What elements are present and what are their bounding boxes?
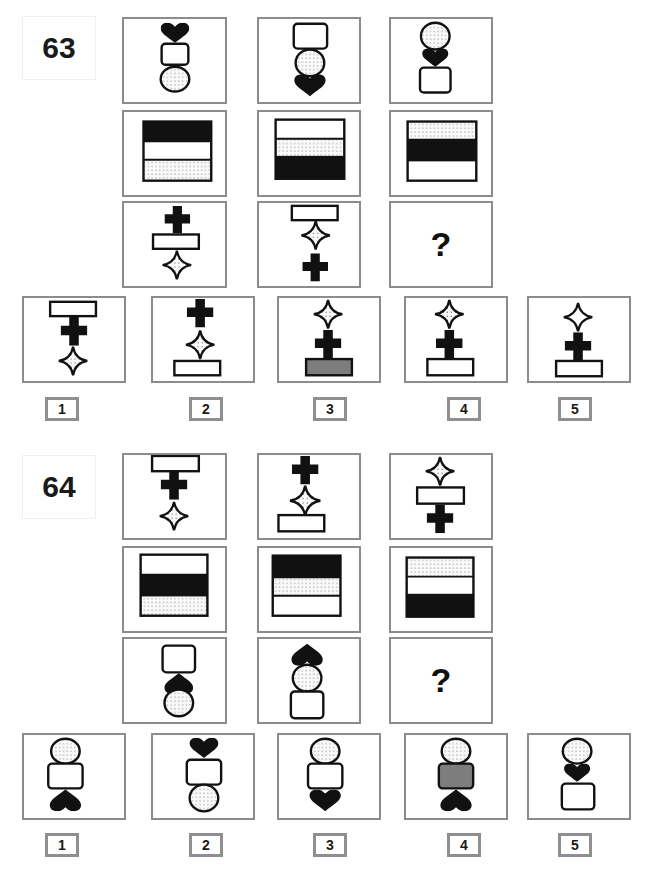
p63-r2c2-stripes — [257, 110, 361, 197]
p64-answer-5[interactable] — [527, 733, 631, 820]
p63-answer-5[interactable] — [527, 296, 631, 383]
heart-icon — [161, 23, 190, 43]
p64-label-5[interactable]: 5 — [558, 833, 592, 857]
p63-r1c1-figure — [122, 17, 227, 104]
p63-answer-1[interactable] — [22, 296, 126, 383]
p63-label-5[interactable]: 5 — [558, 397, 592, 421]
p63-r1c2-figure — [257, 17, 361, 104]
p63-r2c1-stripes — [122, 110, 227, 197]
p64-r3c2-figure — [257, 637, 361, 724]
p64-answer-3[interactable] — [277, 733, 381, 820]
p64-r2c3-stripes — [389, 546, 493, 633]
p63-r3c2-figure — [257, 201, 361, 288]
p63-answer-2[interactable] — [151, 296, 255, 383]
puzzle-number-63: 63 — [22, 16, 96, 80]
p63-label-1[interactable]: 1 — [45, 397, 79, 421]
p63-r2c3-stripes — [389, 110, 493, 197]
p63-answer-4[interactable] — [404, 296, 508, 383]
p63-r3c1-figure — [122, 201, 227, 288]
p63-answer-3[interactable] — [277, 296, 381, 383]
p64-label-1[interactable]: 1 — [45, 833, 79, 857]
question-mark: ? — [391, 203, 491, 286]
question-mark: ? — [391, 639, 491, 722]
p64-r2c1-stripes — [122, 546, 227, 633]
p63-r1c3-figure — [389, 17, 493, 104]
p64-r2c2-stripes — [257, 546, 361, 633]
p64-r1c2-figure — [257, 453, 361, 540]
p64-label-4[interactable]: 4 — [447, 833, 481, 857]
p64-missing-cell: ? — [389, 637, 493, 724]
p64-answer-1[interactable] — [22, 733, 126, 820]
p63-label-4[interactable]: 4 — [447, 397, 481, 421]
p64-r3c1-figure — [122, 637, 227, 724]
p64-label-3[interactable]: 3 — [313, 833, 347, 857]
p64-r1c1-figure — [122, 453, 227, 540]
p64-label-2[interactable]: 2 — [189, 833, 223, 857]
p64-answer-2[interactable] — [151, 733, 255, 820]
p64-answer-4[interactable] — [404, 733, 508, 820]
p63-label-2[interactable]: 2 — [189, 397, 223, 421]
p63-missing-cell: ? — [389, 201, 493, 288]
puzzle-number-64: 64 — [22, 455, 96, 519]
p63-label-3[interactable]: 3 — [313, 397, 347, 421]
p64-r1c3-figure — [389, 453, 493, 540]
